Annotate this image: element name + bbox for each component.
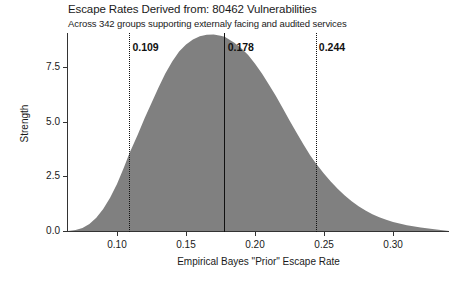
y-tick-label: 5.0 <box>26 116 60 127</box>
y-axis-label: Strength <box>19 84 30 164</box>
y-tick-mark <box>63 67 67 68</box>
y-tick-mark <box>63 231 67 232</box>
y-tick-label: 7.5 <box>26 61 60 72</box>
x-tick-mark <box>255 232 256 236</box>
x-axis-label: Empirical Bayes "Prior" Escape Rate <box>68 256 449 267</box>
x-tick-label: 0.15 <box>166 239 206 250</box>
annotation-label-upper-bound: 0.244 <box>319 41 345 53</box>
x-tick-mark <box>393 232 394 236</box>
x-tick-mark <box>186 232 187 236</box>
x-tick-label: 0.20 <box>235 239 275 250</box>
y-tick-mark <box>63 122 67 123</box>
x-tick-label: 0.25 <box>304 239 344 250</box>
annotation-label-mean: 0.178 <box>228 41 254 53</box>
x-axis-line <box>67 231 449 232</box>
chart-subtitle: Across 342 groups supporting externaly f… <box>68 18 347 29</box>
annotation-line-mean <box>224 33 225 232</box>
y-tick-label: 0.0 <box>26 225 60 236</box>
y-tick-mark <box>63 176 67 177</box>
annotation-line-upper-bound <box>316 33 317 232</box>
chart-title: Escape Rates Derived from: 80462 Vulnera… <box>68 3 317 15</box>
chart-page: Escape Rates Derived from: 80462 Vulnera… <box>0 0 454 283</box>
annotation-line-lower-bound <box>129 33 130 232</box>
x-tick-mark <box>324 232 325 236</box>
y-tick-label: 2.5 <box>26 170 60 181</box>
x-tick-label: 0.10 <box>97 239 137 250</box>
density-curve <box>68 33 449 231</box>
plot-area <box>68 33 449 231</box>
annotation-label-lower-bound: 0.109 <box>132 41 158 53</box>
x-tick-mark <box>117 232 118 236</box>
x-tick-label: 0.30 <box>373 239 413 250</box>
